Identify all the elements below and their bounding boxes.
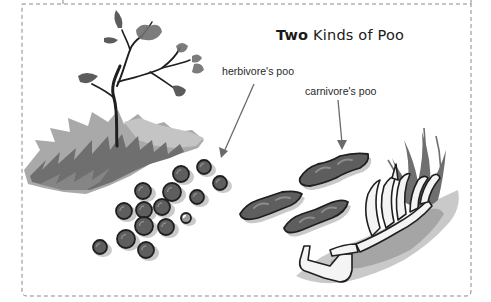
figure-frame: Two Kinds of Poo herbivore's poo carnivo… bbox=[0, 0, 491, 302]
herbivore-pellet bbox=[136, 202, 152, 218]
figure-title: Two Kinds of Poo bbox=[276, 27, 404, 43]
carnivore-label: carnivore's poo bbox=[305, 85, 376, 97]
herbivore-label: herbivore's poo bbox=[222, 65, 294, 77]
herbivore-arrow bbox=[219, 84, 254, 158]
herbivore-pellet bbox=[135, 217, 153, 235]
herbivore-pellet bbox=[173, 166, 189, 182]
herbivore-pellet bbox=[154, 199, 170, 215]
title-rest: Kinds of Poo bbox=[308, 27, 404, 43]
carcass-ground bbox=[296, 128, 459, 283]
title-bold: Two bbox=[276, 27, 308, 43]
herbivore-pellet bbox=[93, 240, 107, 254]
carnivore-arrow bbox=[337, 100, 347, 150]
carnivore-scat bbox=[240, 153, 371, 236]
herbivore-pellet bbox=[158, 219, 174, 235]
herbivore-pellet bbox=[116, 203, 132, 219]
herbivore-pellet bbox=[190, 190, 204, 204]
herbivore-pellet bbox=[117, 230, 135, 248]
herbivore-pellet bbox=[197, 160, 211, 174]
herbivore-pellet bbox=[135, 183, 151, 199]
herbivore-pellet bbox=[213, 176, 227, 190]
herbivore-pellet bbox=[138, 242, 154, 258]
herbivore-pellet bbox=[181, 213, 191, 223]
herbivore-pellet bbox=[163, 183, 181, 201]
